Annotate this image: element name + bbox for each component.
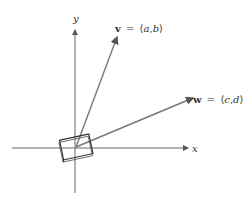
vector-diagram: y x v = ⟨a,b⟩ w = ⟨c,d⟩ [0,0,246,208]
vector-w-label: w = ⟨c,d⟩ [192,94,243,105]
vector-v [76,37,117,147]
y-axis-label: y [72,13,79,24]
vector-w [76,98,193,147]
x-axis-label: x [192,143,198,154]
vector-v-label: v = ⟨a,b⟩ [114,23,163,34]
